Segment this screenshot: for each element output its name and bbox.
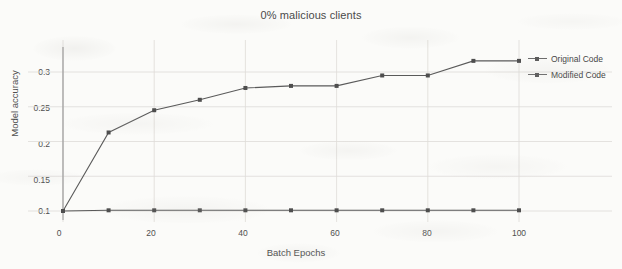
data-point-marker (335, 208, 339, 212)
chart-legend: Original Code Modified Code (528, 53, 606, 80)
data-point-marker (517, 208, 521, 212)
data-point-marker (152, 208, 156, 212)
legend-item-original-code[interactable]: Original Code (528, 53, 606, 64)
data-point-marker (107, 130, 111, 134)
data-point-marker (426, 73, 430, 77)
data-point-marker (289, 208, 293, 212)
data-point-marker (517, 59, 521, 63)
data-point-marker (243, 208, 247, 212)
data-point-marker (335, 84, 339, 88)
data-point-marker (380, 208, 384, 212)
data-point-marker (380, 73, 384, 77)
data-point-marker (107, 208, 111, 212)
series-line-modified-code (63, 61, 519, 211)
data-point-marker (471, 208, 475, 212)
legend-label: Original Code (551, 54, 603, 64)
data-point-marker (471, 59, 475, 63)
legend-line-marker-icon (528, 70, 547, 79)
series-layer (61, 59, 521, 213)
data-point-marker (61, 209, 65, 213)
legend-line-marker-icon (528, 54, 547, 63)
chart-figure: 0% malicious clients Model accuracy Batc… (0, 0, 622, 269)
legend-label: Modified Code (551, 70, 606, 80)
data-point-marker (243, 86, 247, 90)
data-point-marker (198, 208, 202, 212)
data-point-marker (152, 108, 156, 112)
data-point-marker (289, 84, 293, 88)
plot-area (0, 0, 622, 269)
gridlines (28, 40, 612, 222)
data-point-marker (198, 98, 202, 102)
data-point-marker (426, 208, 430, 212)
legend-item-modified-code[interactable]: Modified Code (528, 69, 606, 80)
